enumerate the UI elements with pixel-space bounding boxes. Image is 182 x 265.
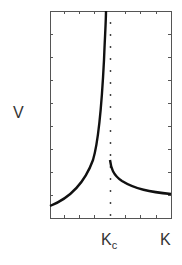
kc-tick-label: Kc <box>101 232 117 253</box>
chart-canvas <box>0 0 182 265</box>
left-branch-curve <box>50 11 106 206</box>
kc-main: K <box>101 231 112 248</box>
kc-dotted-line <box>110 22 112 216</box>
x-axis-label: K <box>160 232 171 248</box>
y-axis-label: V <box>13 105 24 121</box>
right-branch-curve <box>110 160 171 194</box>
axis-ticks <box>50 11 171 218</box>
kc-subscript: c <box>112 239 118 251</box>
plot-frame <box>51 12 172 219</box>
